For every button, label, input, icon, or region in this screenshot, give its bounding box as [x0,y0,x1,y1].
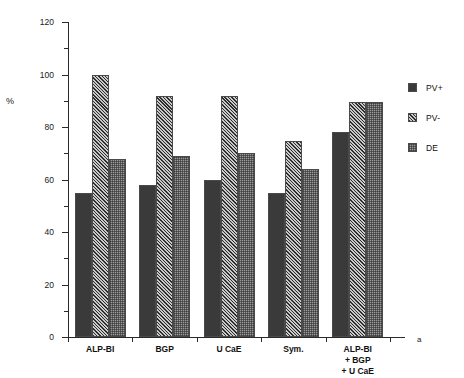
plot-area: 020406080100120 [68,22,390,337]
y-tick-major: 60 [62,180,68,181]
legend-swatch-pv-negative [408,113,417,122]
bar-group [204,22,255,337]
bar-group [268,22,319,337]
bar-de [238,153,255,337]
x-axis-category-label: BGP [132,344,196,355]
panel-tag: a [417,335,421,344]
legend-item-pv-negative: PV- [408,112,443,123]
x-axis-category-label: ALP-BI [68,344,132,355]
bar-pv-positive [139,185,156,337]
y-tick-label: 20 [45,280,54,289]
y-tick-major: 100 [62,75,68,76]
x-axis-line [68,337,405,338]
y-tick-major: 20 [62,285,68,286]
y-tick-label: 80 [45,123,54,132]
x-tick [68,337,69,342]
bar-pv-positive [75,193,92,337]
y-tick-label: 100 [40,70,54,79]
y-tick-label: 40 [45,228,54,237]
legend-label-de: DE [426,143,438,153]
bar-pv-negative [156,96,173,338]
bar-de [366,102,383,337]
bar-pv-positive [204,180,221,338]
legend-label-pv-positive: PV+ [426,83,443,93]
legend-swatch-de [408,143,417,152]
legend-swatch-pv-positive [408,83,417,92]
x-axis-category-label: U CaE [197,344,261,355]
y-tick-label: 120 [40,18,54,27]
bar-group [139,22,190,337]
x-tick [390,337,391,342]
bar-group [332,22,383,337]
bar-group [75,22,126,337]
y-tick-minor [64,48,68,49]
legend-item-pv-positive: PV+ [408,82,443,93]
bar-de [109,159,126,338]
y-tick-minor [64,206,68,207]
y-axis-label: % [6,96,14,106]
y-tick-minor [64,311,68,312]
bar-pv-positive [268,193,285,337]
bar-chart: % 020406080100120 ALP-BIBGPU CaESym.ALP-… [0,0,464,378]
y-tick-major: 40 [62,232,68,233]
y-tick-minor [64,101,68,102]
x-tick [326,337,327,342]
y-tick-label: 60 [45,175,54,184]
bar-pv-negative [221,96,238,338]
bar-pv-negative [349,102,366,337]
x-axis-category-label: Sym. [261,344,325,355]
bar-pv-negative [285,141,302,337]
bar-de [173,156,190,337]
y-tick-minor [64,153,68,154]
legend: PV+ PV- DE [408,82,443,172]
y-tick-label: 0 [49,333,54,342]
legend-item-de: DE [408,142,443,153]
y-tick-minor [64,258,68,259]
bar-pv-positive [332,132,349,337]
x-tick [261,337,262,342]
legend-label-pv-negative: PV- [426,113,440,123]
x-axis-category-label: ALP-BI + BGP + U CaE [326,344,390,377]
bar-de [302,169,319,337]
x-tick [197,337,198,342]
bar-pv-negative [92,75,109,338]
y-tick-major: 120 [62,22,68,23]
y-tick-major: 80 [62,127,68,128]
x-tick [132,337,133,342]
